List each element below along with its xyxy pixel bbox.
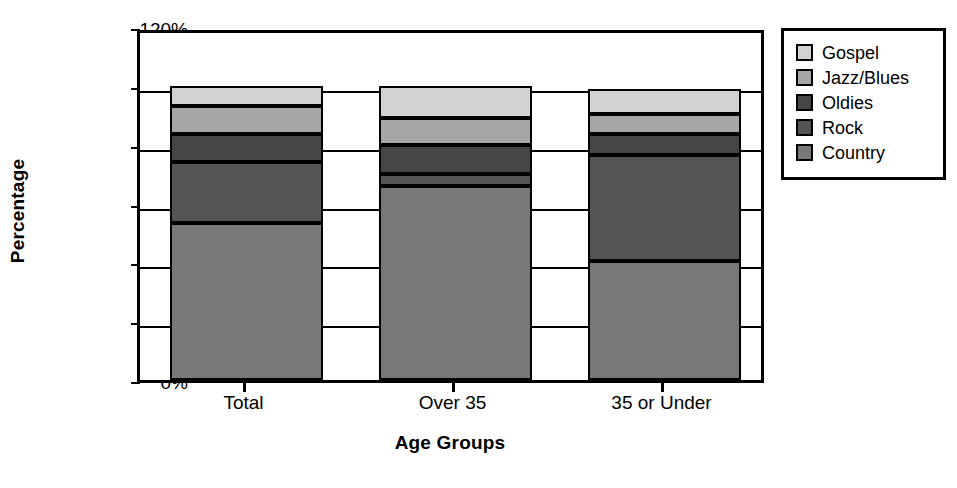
- bar-segment-gospel[interactable]: [588, 89, 741, 114]
- legend-label: Country: [822, 144, 885, 162]
- bar-segment-country[interactable]: [379, 186, 532, 380]
- bar-segment-country[interactable]: [588, 261, 741, 380]
- bar-segment-country[interactable]: [170, 223, 323, 380]
- legend-swatch-icon: [796, 119, 813, 136]
- legend-label: Oldies: [822, 94, 873, 112]
- legend-label: Rock: [822, 119, 863, 137]
- x-tick-mark: [661, 383, 664, 392]
- bar-segment-gospel[interactable]: [170, 86, 323, 107]
- legend-item[interactable]: Rock: [796, 115, 943, 140]
- x-axis-title: Age Groups: [0, 432, 900, 454]
- legend-item[interactable]: Country: [796, 140, 943, 165]
- bar-segment-jazz-blues[interactable]: [379, 118, 532, 144]
- bar-segment-gospel[interactable]: [379, 86, 532, 118]
- legend-swatch-icon: [796, 44, 813, 61]
- legend: GospelJazz/BluesOldiesRockCountry: [781, 28, 946, 180]
- bar-segment-rock[interactable]: [379, 174, 532, 186]
- legend-item[interactable]: Oldies: [796, 90, 943, 115]
- legend-swatch-icon: [796, 94, 813, 111]
- stacked-bar[interactable]: [379, 27, 532, 380]
- bar-segment-jazz-blues[interactable]: [588, 114, 741, 135]
- bar-segment-rock[interactable]: [588, 155, 741, 261]
- legend-label: Gospel: [822, 44, 879, 62]
- bar-segment-rock[interactable]: [170, 162, 323, 222]
- stacked-bar-chart: Percentage 0%20%40%60%80%100%120% TotalO…: [0, 0, 957, 488]
- legend-item[interactable]: Jazz/Blues: [796, 65, 943, 90]
- stacked-bar[interactable]: [588, 27, 741, 380]
- plot-inner: [140, 33, 761, 380]
- legend-swatch-icon: [796, 144, 813, 161]
- x-tick-label: Over 35: [353, 392, 553, 414]
- legend-item[interactable]: Gospel: [796, 40, 943, 65]
- x-tick-label: 35 or Under: [562, 392, 762, 414]
- x-tick-label: Total: [144, 392, 344, 414]
- x-tick-mark: [243, 383, 246, 392]
- bar-segment-jazz-blues[interactable]: [170, 106, 323, 134]
- bar-segment-oldies[interactable]: [379, 145, 532, 174]
- y-axis-title: Percentage: [7, 111, 29, 311]
- legend-swatch-icon: [796, 69, 813, 86]
- x-tick-mark: [452, 383, 455, 392]
- stacked-bar[interactable]: [170, 27, 323, 380]
- legend-label: Jazz/Blues: [822, 69, 909, 87]
- bar-segment-oldies[interactable]: [588, 134, 741, 155]
- plot-area: [137, 30, 764, 383]
- bar-segment-oldies[interactable]: [170, 134, 323, 162]
